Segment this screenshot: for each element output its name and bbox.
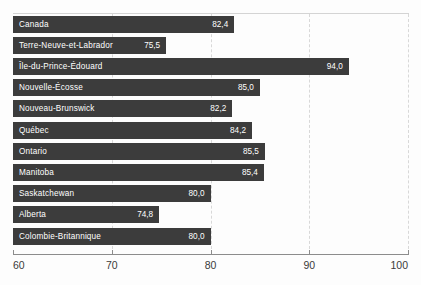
axis-tick-80 [211,250,212,255]
bar-category-label: Colombie-Britannique [19,228,101,245]
bar-value-label: 84,2 [224,122,246,139]
axis-tick-label-80: 80 [205,259,217,271]
bar-row: Canada82,4 [13,16,408,33]
bar-value-label: 82,4 [206,16,228,33]
axis-tick-60 [13,250,14,255]
bar-row: Saskatchewan80,0 [13,185,408,202]
bar-category-label: Manitoba [19,164,54,181]
bar-value-label: 74,8 [131,206,153,223]
bar-row: Québec84,2 [13,122,408,139]
bar-value-label: 80,0 [183,228,205,245]
bar-row: Nouveau-Brunswick82,2 [13,100,408,117]
bar [13,122,252,139]
bar-value-label: 85,4 [236,164,258,181]
bar-value-label: 85,0 [232,79,254,96]
bars-layer: Canada82,4Terre-Neuve-et-Labrador75,5Île… [13,14,408,254]
axis-tick-70 [112,250,113,255]
bar-category-label: Nouveau-Brunswick [19,100,95,117]
bar-category-label: Île-du-Prince-Édouard [19,58,103,75]
axis-tick-label-90: 90 [303,259,315,271]
bar-row: Nouvelle-Écosse85,0 [13,79,408,96]
bar-category-label: Saskatchewan [19,185,74,202]
gridline-100 [408,14,409,254]
bar-row: Ontario85,5 [13,143,408,160]
bar-value-label: 94,0 [321,58,343,75]
bar-value-label: 85,5 [237,143,259,160]
bar-category-label: Canada [19,16,49,33]
bar-value-label: 80,0 [183,185,205,202]
axis-tick-label-70: 70 [106,259,118,271]
axis-tick-label-100: 100 [390,259,408,271]
bar-chart: Canada82,4Terre-Neuve-et-Labrador75,5Île… [0,0,421,285]
bar-row: Manitoba85,4 [13,164,408,181]
bar-value-label: 75,5 [138,37,160,54]
bar-value-label: 82,2 [204,100,226,117]
bar-category-label: Ontario [19,143,47,160]
axis-tick-100 [408,250,409,255]
axis-tick-label-60: 60 [13,259,25,271]
bar-row: Colombie-Britannique80,0 [13,228,408,245]
bar-category-label: Alberta [19,206,46,223]
bar-row: Terre-Neuve-et-Labrador75,5 [13,37,408,54]
bar-category-label: Terre-Neuve-et-Labrador [19,37,113,54]
bar-category-label: Québec [19,122,49,139]
bar-row: Île-du-Prince-Édouard94,0 [13,58,408,75]
bar-category-label: Nouvelle-Écosse [19,79,83,96]
bar [13,143,265,160]
axis-tick-90 [309,250,310,255]
plot-area: Canada82,4Terre-Neuve-et-Labrador75,5Île… [13,14,408,254]
bar-row: Alberta74,8 [13,206,408,223]
